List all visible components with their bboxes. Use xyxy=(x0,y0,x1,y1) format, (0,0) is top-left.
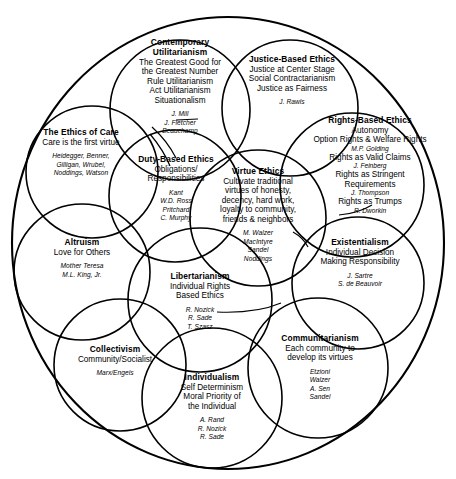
name-nozick: R. Nozick xyxy=(142,306,258,314)
desc-communitarianism-line2: develop its virtues xyxy=(256,353,384,363)
label-justice-based-ethics: Justice-Based Ethics Justice at Center S… xyxy=(226,55,358,107)
desc-rights-based-ethics-option-welfare: Option Rights & Welfare Rights xyxy=(294,135,446,145)
name-golding: M.P. Golding xyxy=(294,145,446,153)
name-de-beauvoir: S. de Beauvoir xyxy=(296,280,424,288)
names-existentialism: J. Sartre S. de Beauvoir xyxy=(296,272,424,289)
desc-virtue-ethics-line3: decency, hard work, xyxy=(197,196,319,206)
name-sandel-comm: Sandel xyxy=(256,393,384,401)
desc-virtue-ethics-line5: friends & neighbors xyxy=(197,215,319,225)
title-altruism: Altruism xyxy=(20,238,144,248)
title-rights-based-ethics: Rights-Based Ethics xyxy=(294,116,446,126)
name-rawls: J. Rawls xyxy=(226,98,358,106)
names-altruism: Mother Teresa M.L. King, Jr. xyxy=(20,262,144,279)
desc-altruism: Love for Others xyxy=(20,248,144,258)
names-individualism: A. Rand R. Nozick R. Sade xyxy=(152,416,272,441)
name-sen: A. Sen xyxy=(256,385,384,393)
desc-justice-based-ethics-line1: Justice at Center Stage xyxy=(226,65,358,75)
name-szasz: T. Szasz xyxy=(142,323,258,331)
name-nozick-ind: R. Nozick xyxy=(152,425,272,433)
desc-individualism-line3: the Individual xyxy=(152,402,272,412)
name-sade: R. Sade xyxy=(142,314,258,322)
title-duty-based-ethics: Duty-Based Ethics xyxy=(118,155,234,165)
label-individualism: Individualism Self Determinism Moral Pri… xyxy=(152,373,272,442)
label-altruism: Altruism Love for Others Mother Teresa M… xyxy=(20,238,144,279)
label-libertarianism: Libertarianism Individual Rights Based E… xyxy=(142,272,258,331)
name-fletcher: J. Fletcher xyxy=(112,119,248,127)
desc-justice-based-ethics-line3: Justice as Fairness xyxy=(226,84,358,94)
title-justice-based-ethics: Justice-Based Ethics xyxy=(226,55,358,65)
title-ethics-of-care: The Ethics of Care xyxy=(16,128,146,138)
desc-rights-based-ethics-autonomy: Autonomy xyxy=(294,126,446,136)
name-sade-ind: R. Sade xyxy=(152,433,272,441)
name-mlk: M.L. King, Jr. xyxy=(20,271,144,279)
desc-virtue-ethics-line2: virtues of honesty, xyxy=(197,186,319,196)
desc-existentialism-line2: Making Responsibility xyxy=(296,257,424,267)
desc-individualism-line2: Moral Priority of xyxy=(152,392,272,402)
desc-justice-based-ethics-line2: Social Contractarianism xyxy=(226,74,358,84)
name-etzioni: Etzioni xyxy=(256,368,384,376)
desc-communitarianism-line1: Each community to xyxy=(256,344,384,354)
desc-virtue-ethics-line1: Cultivate traditional xyxy=(197,177,319,187)
title-individualism: Individualism xyxy=(152,373,272,383)
names-libertarianism: R. Nozick R. Sade T. Szasz xyxy=(142,306,258,331)
desc-rights-as-valid-claims: Rights as Valid Claims xyxy=(294,153,446,163)
ethical-theories-venn-diagram: Contemporary Utilitarianism The Greatest… xyxy=(0,0,456,479)
desc-virtue-ethics-line4: loyalty to community, xyxy=(197,205,319,215)
names-communitarianism: Etzioni Walzer A. Sen Sandel xyxy=(256,368,384,402)
title-communitarianism: Communitarianism xyxy=(256,334,384,344)
label-existentialism: Existentialism Individual Decision Makin… xyxy=(296,238,424,289)
names-justice-based-ethics: J. Rawls xyxy=(226,98,358,106)
name-sartre: J. Sartre xyxy=(296,272,424,280)
title-collectivism: Collectivism xyxy=(56,345,174,355)
title-virtue-ethics: Virtue Ethics xyxy=(197,167,319,177)
desc-existentialism-line1: Individual Decision xyxy=(296,248,424,258)
name-mill: J. Mill xyxy=(112,110,248,118)
desc-collectivism: Community/Socialist xyxy=(56,355,174,365)
name-walzer: M. Walzer xyxy=(197,229,319,237)
name-rand: A. Rand xyxy=(152,416,272,424)
title-libertarianism: Libertarianism xyxy=(142,272,258,282)
desc-libertarianism-line2: Based Ethics xyxy=(142,291,258,301)
name-walzer-comm: Walzer xyxy=(256,376,384,384)
desc-ethics-of-care: Care is the first virtue xyxy=(16,138,146,148)
label-communitarianism: Communitarianism Each community to devel… xyxy=(256,334,384,402)
title-existentialism: Existentialism xyxy=(296,238,424,248)
desc-individualism-line1: Self Determinism xyxy=(152,383,272,393)
desc-libertarianism-line1: Individual Rights xyxy=(142,282,258,292)
name-mother-teresa: Mother Teresa xyxy=(20,262,144,270)
